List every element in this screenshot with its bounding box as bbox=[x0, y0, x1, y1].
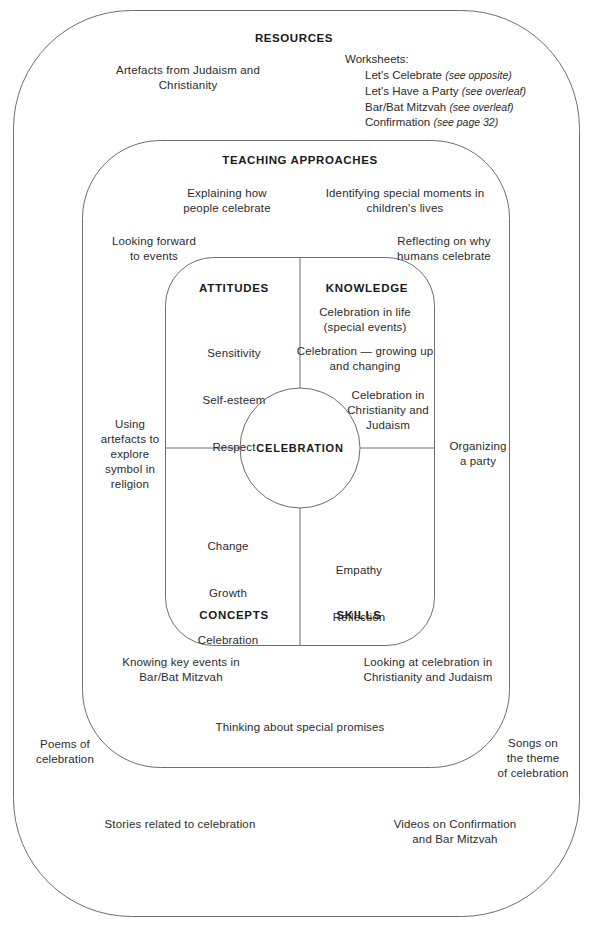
concepts-item-0: Change bbox=[172, 535, 284, 559]
worksheet-note: (see overleaf) bbox=[462, 85, 526, 97]
approach-explaining: Explaining how people celebrate bbox=[162, 186, 292, 216]
knowledge-item-0: Celebration in life (special events) bbox=[304, 305, 426, 335]
approach-identifying: Identifying special moments in children'… bbox=[310, 186, 500, 216]
approach-thinking-promises: Thinking about special promises bbox=[190, 720, 410, 735]
worksheet-name: Let's Celebrate bbox=[365, 69, 445, 81]
quadrant-items-skills: Empathy Reflection bbox=[317, 535, 401, 653]
resource-artefacts: Artefacts from Judaism and Christianity bbox=[98, 63, 278, 93]
resource-worksheets: Worksheets:Let's Celebrate (see opposite… bbox=[345, 52, 575, 131]
attitudes-item-0: Sensitivity bbox=[182, 342, 286, 366]
quadrant-heading-knowledge: KNOWLEDGE bbox=[312, 281, 422, 296]
approach-using-artefacts: Using artefacts to explore symbol in rel… bbox=[92, 417, 168, 492]
quadrant-items-attitudes: Sensitivity Self-esteem Respect bbox=[182, 318, 286, 483]
approach-organizing: Organizing a party bbox=[438, 439, 518, 469]
worksheet-name: Confirmation bbox=[365, 116, 433, 128]
worksheet-item: Let's Have a Party (see overleaf) bbox=[345, 84, 575, 100]
quadrant-items-concepts: Change Growth Celebration bbox=[172, 511, 284, 676]
quadrant-heading-attitudes: ATTITUDES bbox=[182, 281, 286, 296]
concepts-item-2: Celebration bbox=[172, 629, 284, 653]
approach-reflecting: Reflecting on why humans celebrate bbox=[382, 234, 506, 264]
resource-songs: Songs on the theme of celebration bbox=[483, 736, 583, 781]
attitudes-item-1: Self-esteem bbox=[182, 389, 286, 413]
worksheet-note: (see opposite) bbox=[445, 69, 512, 81]
concepts-item-1: Growth bbox=[172, 582, 284, 606]
resource-stories: Stories related to celebration bbox=[80, 817, 280, 832]
knowledge-item-1: Celebration — growing up and changing bbox=[294, 344, 436, 374]
knowledge-item-2: Celebration in Christianity and Judaism bbox=[340, 388, 436, 433]
approach-looking-forward: Looking forward to events bbox=[95, 234, 213, 264]
skills-item-1: Reflection bbox=[317, 606, 401, 630]
resources-title: RESOURCES bbox=[234, 31, 354, 46]
worksheet-item: Bar/Bat Mitzvah (see overleaf) bbox=[345, 100, 575, 116]
diagram-page: RESOURCES Artefacts from Judaism and Chr… bbox=[0, 0, 589, 928]
resource-poems: Poems of celebration bbox=[19, 737, 111, 767]
resource-videos: Videos on Confirmation and Bar Mitzvah bbox=[372, 817, 538, 847]
celebration-center-label: CELEBRATION bbox=[240, 441, 360, 455]
worksheet-name: Let's Have a Party bbox=[365, 85, 462, 97]
worksheet-note: (see overleaf) bbox=[449, 101, 513, 113]
worksheets-title: Worksheets: bbox=[345, 52, 575, 68]
worksheet-item: Let's Celebrate (see opposite) bbox=[345, 68, 575, 84]
worksheet-item: Confirmation (see page 32) bbox=[345, 115, 575, 131]
teaching-approaches-title: TEACHING APPROACHES bbox=[205, 153, 395, 168]
approach-looking-at-celebration: Looking at celebration in Christianity a… bbox=[345, 655, 511, 685]
skills-item-0: Empathy bbox=[317, 559, 401, 583]
worksheet-name: Bar/Bat Mitzvah bbox=[365, 101, 449, 113]
worksheet-note: (see page 32) bbox=[433, 116, 498, 128]
